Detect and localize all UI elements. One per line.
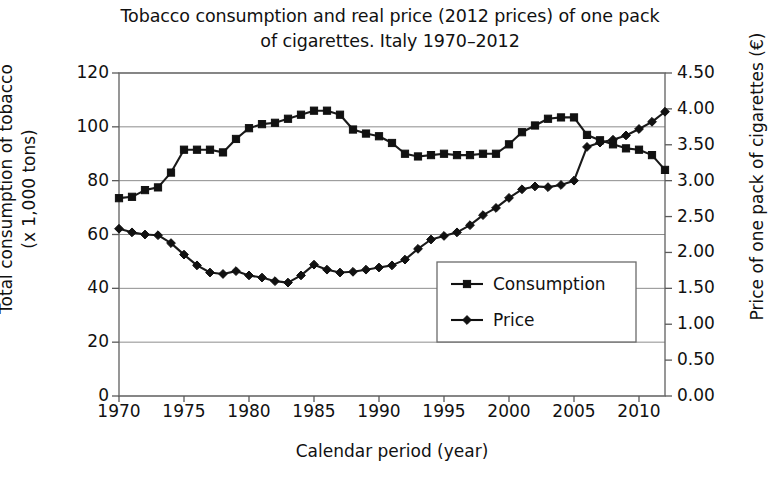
data-point-price — [388, 261, 397, 270]
data-point-consumption — [388, 139, 395, 146]
data-point-price — [635, 125, 644, 134]
data-point-price — [206, 268, 215, 277]
data-point-consumption — [479, 150, 486, 157]
data-point-price — [453, 228, 462, 237]
data-point-consumption — [570, 114, 577, 121]
data-point-consumption — [362, 130, 369, 137]
data-point-price — [258, 273, 267, 282]
data-point-consumption — [284, 115, 291, 122]
data-point-consumption — [219, 149, 226, 156]
data-point-consumption — [232, 135, 239, 142]
data-point-price — [622, 131, 631, 140]
chart-figure: Tobacco consumption and real price (2012… — [0, 0, 781, 477]
data-point-consumption — [661, 166, 668, 173]
data-point-price — [336, 268, 345, 277]
data-point-consumption — [466, 151, 473, 158]
legend-label-price: Price — [493, 310, 534, 330]
data-point-consumption — [375, 133, 382, 140]
data-point-consumption — [427, 151, 434, 158]
data-point-consumption — [622, 145, 629, 152]
data-point-consumption — [453, 151, 460, 158]
data-point-consumption — [167, 169, 174, 176]
data-point-consumption — [583, 131, 590, 138]
data-point-consumption — [297, 111, 304, 118]
data-point-consumption — [531, 122, 538, 129]
data-point-consumption — [505, 141, 512, 148]
data-point-consumption — [349, 126, 356, 133]
data-point-price — [557, 181, 566, 190]
data-point-price — [362, 265, 371, 274]
data-point-price — [323, 265, 332, 274]
data-point-consumption — [180, 146, 187, 153]
data-point-price — [128, 228, 137, 237]
data-point-consumption — [154, 184, 161, 191]
data-point-price — [583, 143, 592, 152]
data-point-consumption — [492, 150, 499, 157]
data-point-consumption — [271, 119, 278, 126]
data-point-price — [570, 176, 579, 185]
data-point-price — [349, 267, 358, 276]
data-point-price — [271, 277, 280, 286]
data-point-consumption — [440, 150, 447, 157]
data-point-price — [284, 278, 293, 287]
data-point-price — [115, 224, 124, 233]
legend-marker-consumption — [463, 280, 470, 287]
data-point-price — [141, 230, 150, 239]
data-point-consumption — [258, 121, 265, 128]
data-point-price — [219, 270, 228, 279]
legend-label-consumption: Consumption — [493, 274, 606, 294]
data-point-consumption — [648, 151, 655, 158]
data-point-consumption — [635, 146, 642, 153]
data-point-consumption — [518, 129, 525, 136]
data-point-consumption — [206, 146, 213, 153]
data-point-price — [245, 271, 254, 280]
data-point-price — [375, 263, 384, 272]
data-point-consumption — [336, 111, 343, 118]
data-point-price — [544, 183, 553, 192]
data-point-consumption — [245, 125, 252, 132]
data-point-consumption — [544, 115, 551, 122]
data-point-consumption — [414, 153, 421, 160]
data-point-consumption — [323, 107, 330, 114]
data-point-consumption — [141, 186, 148, 193]
data-point-price — [232, 267, 241, 276]
plot-area: ConsumptionPrice — [0, 0, 781, 477]
data-point-consumption — [310, 107, 317, 114]
data-point-price — [440, 232, 449, 241]
data-point-consumption — [128, 193, 135, 200]
data-point-consumption — [557, 114, 564, 121]
data-point-price — [531, 182, 540, 191]
data-point-consumption — [193, 146, 200, 153]
data-point-consumption — [401, 150, 408, 157]
data-point-consumption — [115, 195, 122, 202]
